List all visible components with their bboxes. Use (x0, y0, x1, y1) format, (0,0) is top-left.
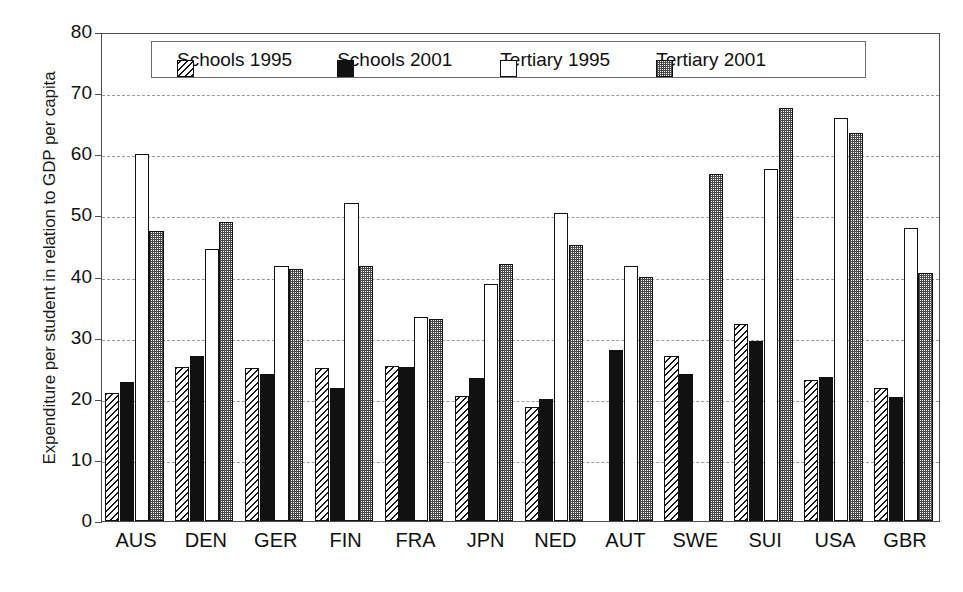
bar (734, 324, 748, 521)
bar (385, 366, 399, 521)
bar (569, 245, 583, 521)
bar (274, 266, 288, 522)
bar (429, 319, 443, 521)
bar (175, 367, 189, 521)
x-tick-label: FRA (381, 529, 451, 551)
bar (554, 213, 568, 521)
x-tick-label: SUI (730, 529, 800, 551)
bar-group (452, 34, 522, 521)
bar (330, 388, 344, 521)
bar (499, 264, 513, 521)
bar (135, 154, 149, 521)
x-tick-label: DEN (171, 529, 241, 551)
bar (149, 231, 163, 521)
legend-item-tertiary-1995: Tertiary 1995 (500, 49, 610, 71)
white-swatch-icon (500, 60, 517, 77)
bar-group (731, 34, 801, 521)
y-tick-label: 10 (28, 450, 92, 469)
legend-label: Schools 2001 (337, 49, 452, 71)
bar (190, 356, 204, 521)
y-tick-label: 0 (28, 511, 92, 530)
x-tick-label: AUT (590, 529, 660, 551)
hatched-swatch-icon (177, 60, 194, 77)
bar (399, 367, 413, 521)
y-tick-mark (95, 522, 102, 523)
bar (834, 118, 848, 521)
bar (709, 174, 723, 521)
bar (539, 399, 553, 521)
x-tick-label: NED (521, 529, 591, 551)
legend-item-schools-1995: Schools 1995 (177, 49, 292, 71)
bar-group (801, 34, 871, 521)
bar (455, 396, 469, 521)
x-tick-label: AUS (101, 529, 171, 551)
bar (359, 266, 373, 522)
bar (904, 228, 918, 521)
bar (609, 350, 623, 521)
bar (344, 203, 358, 521)
bar (849, 133, 863, 521)
legend-label: Schools 1995 (177, 49, 292, 71)
y-tick-label: 30 (28, 328, 92, 347)
x-tick-label: SWE (660, 529, 730, 551)
bar (414, 317, 428, 521)
bar-group (382, 34, 452, 521)
y-tick-label: 60 (28, 144, 92, 163)
bar (664, 356, 678, 521)
bar (105, 393, 119, 521)
legend-item-tertiary-2001: Tertiary 2001 (656, 49, 766, 71)
bar (804, 380, 818, 521)
x-tick-label: FIN (311, 529, 381, 551)
x-tick-label: GER (241, 529, 311, 551)
bar (819, 377, 833, 521)
bar (219, 222, 233, 522)
bar (679, 374, 693, 521)
bar-group (871, 34, 941, 521)
x-tick-label: JPN (451, 529, 521, 551)
bar-group (661, 34, 731, 521)
bar (484, 284, 498, 521)
y-tick-label: 40 (28, 267, 92, 286)
bar-group (242, 34, 312, 521)
bar (889, 397, 903, 521)
bar (469, 378, 483, 521)
plot-area (101, 33, 940, 522)
bar (874, 388, 888, 521)
x-tick-label: GBR (870, 529, 940, 551)
bar-group (102, 34, 172, 521)
bar-chart-figure: Expenditure per student in relation to G… (0, 0, 963, 592)
bar (918, 273, 932, 521)
legend-item-schools-2001: Schools 2001 (337, 49, 452, 71)
bar-group (312, 34, 382, 521)
y-tick-label: 70 (28, 83, 92, 102)
bar (315, 368, 329, 521)
x-tick-label: USA (800, 529, 870, 551)
bar (764, 169, 778, 521)
bar-groups (102, 34, 939, 521)
chart-legend: Schools 1995 Schools 2001 Tertiary 1995 … (151, 41, 866, 78)
bar (525, 407, 539, 521)
bar-group (172, 34, 242, 521)
x-axis-labels: AUSDENGERFINFRAJPNNEDAUTSWESUIUSAGBR (101, 529, 940, 569)
bar (639, 277, 653, 522)
bar (245, 368, 259, 521)
bar (779, 108, 793, 521)
bar (205, 249, 219, 521)
y-tick-label: 50 (28, 205, 92, 224)
bar (624, 266, 638, 522)
gray-swatch-icon (656, 60, 673, 77)
y-tick-label: 80 (28, 22, 92, 41)
black-swatch-icon (337, 60, 354, 77)
bar (749, 341, 763, 521)
bar (260, 374, 274, 521)
bar (120, 382, 134, 521)
bar-group (522, 34, 592, 521)
bar (289, 269, 303, 521)
y-tick-label: 20 (28, 389, 92, 408)
bar-group (591, 34, 661, 521)
